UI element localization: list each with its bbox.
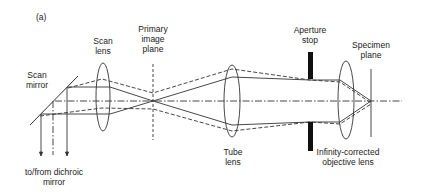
- label-specimen-plane: Specimen plane: [346, 40, 396, 60]
- label-objective-lens: Infinity-corrected objective lens: [303, 147, 393, 167]
- optical-path-diagram: (a) Scan mirror Scan lens Primary image …: [0, 0, 422, 195]
- label-scan-mirror: Scan mirror: [22, 70, 52, 90]
- arrow-icon: [66, 152, 69, 156]
- objective-lens-icon: [338, 61, 354, 139]
- label-primary-image-plane: Primary image plane: [130, 24, 176, 54]
- label-aperture-stop: Aperture stop: [285, 25, 335, 45]
- label-tube-lens: Tube lens: [215, 147, 251, 167]
- ray-dashed-top: [68, 69, 371, 103]
- label-scan-lens: Scan lens: [88, 36, 118, 56]
- label-dichroic: to/from dichroic mirror: [14, 167, 94, 187]
- arrow-icon: [40, 152, 43, 156]
- ray-dashed-bottom: [40, 104, 371, 131]
- panel-label: (a): [36, 12, 46, 22]
- scan-lens-icon: [96, 63, 110, 131]
- aperture-stop-top: [308, 52, 313, 79]
- ray-solid-bottom: [41, 101, 371, 125]
